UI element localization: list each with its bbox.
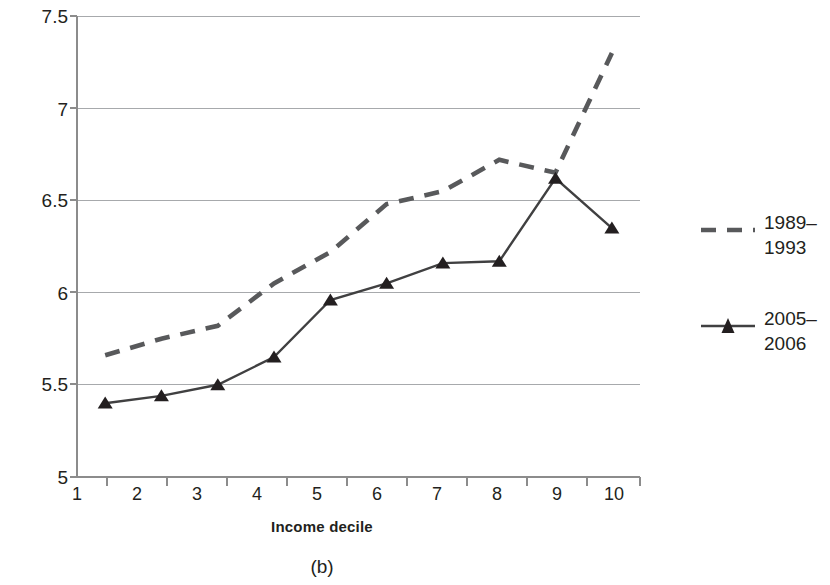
figure-panel-b: 7.5 7 6.5 6 5.5 5 <box>0 0 830 585</box>
y-axis-ticks <box>70 16 77 477</box>
legend-entry-2005-2006: 2005– 2006 <box>700 309 828 367</box>
x-tick-label: 10 <box>592 484 636 504</box>
data-point-marker <box>379 277 394 289</box>
legend-swatch-solid-line-triangle-marker <box>700 315 756 337</box>
legend-label: 1989– 1993 <box>764 210 830 260</box>
x-tick-label: 7 <box>415 484 459 504</box>
series-line-2005-2006 <box>105 178 612 403</box>
x-tick-label: 4 <box>235 484 279 504</box>
legend-swatch-dashed-line <box>700 219 756 241</box>
series-line-1989-1993 <box>105 53 612 355</box>
series-markers-2005-2006 <box>98 172 620 409</box>
x-tick-label: 1 <box>55 484 99 504</box>
x-tick-label: 3 <box>175 484 219 504</box>
figure-caption: (b) <box>77 556 567 578</box>
legend-label: 2005– 2006 <box>764 306 830 356</box>
x-axis-tick-labels: 1 2 3 4 5 6 7 8 9 10 <box>0 484 830 512</box>
x-axis-title: Income decile <box>77 518 567 535</box>
x-tick-label: 9 <box>535 484 579 504</box>
gridlines <box>77 16 640 384</box>
x-tick-label: 5 <box>295 484 339 504</box>
legend-entry-1989-1993: 1989– 1993 <box>700 213 828 271</box>
x-tick-label: 2 <box>115 484 159 504</box>
chart-legend: 1989– 1993 2005– 2006 <box>700 213 828 367</box>
x-tick-label: 8 <box>475 484 519 504</box>
x-tick-label: 6 <box>355 484 399 504</box>
